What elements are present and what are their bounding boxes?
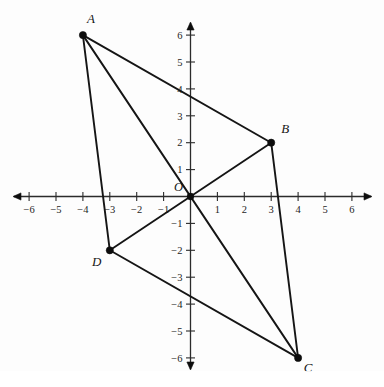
x-axis-arrow-right-icon bbox=[364, 193, 372, 200]
side-AB bbox=[83, 35, 271, 143]
coordinate-figure: −6−5−4−3−2−1123456 654321−1−2−3−4−5−6 AB… bbox=[0, 0, 384, 387]
origin-point bbox=[187, 193, 194, 200]
x-tick-label: −4 bbox=[77, 204, 89, 215]
origin-label: O bbox=[174, 180, 183, 194]
side-DA bbox=[83, 35, 110, 250]
y-tick-label: −3 bbox=[171, 272, 182, 283]
vertex-point-d bbox=[106, 247, 113, 254]
x-tick-label: −5 bbox=[50, 204, 61, 215]
x-tick-label: 4 bbox=[295, 204, 301, 215]
vertex-point-c bbox=[295, 354, 302, 361]
y-axis-arrow-down-icon bbox=[187, 362, 194, 370]
vertex-point-b bbox=[268, 139, 275, 146]
x-tick-label: 2 bbox=[242, 204, 247, 215]
scan-edge-artifact bbox=[0, 371, 384, 387]
y-tick-label: 3 bbox=[177, 111, 182, 122]
x-tick-label: 1 bbox=[215, 204, 220, 215]
y-tick-label: −1 bbox=[171, 218, 182, 229]
side-BC bbox=[271, 143, 298, 358]
y-tick-label: 2 bbox=[177, 137, 182, 148]
vertex-point-a bbox=[79, 31, 86, 38]
y-tick-label: −4 bbox=[171, 299, 183, 310]
x-tick-label: 5 bbox=[322, 204, 327, 215]
y-tick-label: −5 bbox=[171, 326, 182, 337]
y-tick-label: −6 bbox=[171, 353, 182, 364]
coordinate-plane-svg: −6−5−4−3−2−1123456 654321−1−2−3−4−5−6 AB… bbox=[0, 0, 384, 387]
vertex-label-b: B bbox=[281, 121, 289, 136]
vertex-label-d: D bbox=[91, 254, 102, 269]
y-tick-label: 5 bbox=[177, 57, 182, 68]
y-tick-label: −2 bbox=[171, 245, 182, 256]
y-axis-arrow-up-icon bbox=[187, 22, 194, 30]
side-CD bbox=[110, 250, 298, 358]
x-tick-label: 6 bbox=[349, 204, 354, 215]
x-tick-label: −2 bbox=[131, 204, 142, 215]
x-axis-arrow-left-icon bbox=[13, 193, 21, 200]
y-tick-label: 1 bbox=[177, 164, 182, 175]
x-tick-label: 3 bbox=[269, 204, 274, 215]
y-tick-label: 6 bbox=[177, 30, 182, 41]
vertex-label-a: A bbox=[86, 11, 95, 26]
x-tick-label: −6 bbox=[24, 204, 35, 215]
